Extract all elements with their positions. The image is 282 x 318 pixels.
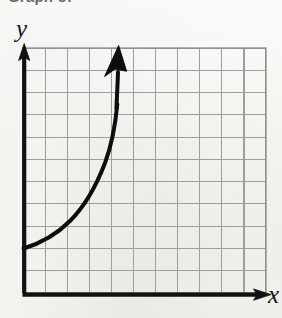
exponential-graph-figure: Graph of: [0, 0, 282, 318]
exponential-curve-path: [24, 104, 118, 249]
curve-shaft-extension: [116, 72, 118, 108]
y-axis-label: y: [16, 15, 27, 43]
x-axis-label: x: [268, 281, 279, 309]
graph-plot-area: [0, 0, 282, 318]
gridlines-group: [23, 48, 266, 293]
curve-arrowhead: [105, 46, 127, 77]
grid-border: [23, 48, 266, 293]
